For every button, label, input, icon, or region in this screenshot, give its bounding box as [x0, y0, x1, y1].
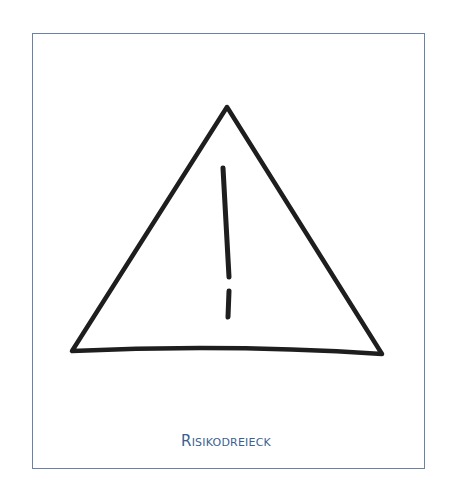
warning-triangle-icon: [0, 0, 452, 500]
exclamation-line: [223, 168, 229, 277]
exclamation-dot: [228, 291, 229, 317]
figure-caption: Risikodreieck: [0, 432, 452, 450]
